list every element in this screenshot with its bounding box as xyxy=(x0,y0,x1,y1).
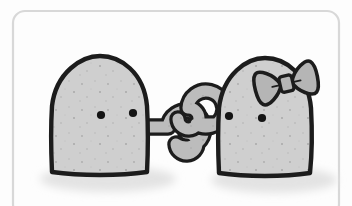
left-blob-character xyxy=(51,56,148,175)
blob-illustration: Two blob characters linked arm-in-arm Ha… xyxy=(0,0,352,206)
right-blob-eye-right xyxy=(258,114,266,122)
right-blob-character xyxy=(218,58,321,176)
interlocking-arms xyxy=(143,91,224,154)
left-blob-eye-left xyxy=(97,111,105,119)
left-blob-eye-right xyxy=(129,109,137,117)
illustration-stage: Two blob characters linked arm-in-arm Ha… xyxy=(0,0,352,206)
right-blob-eye-left xyxy=(225,112,233,120)
bow-knot xyxy=(278,74,294,93)
